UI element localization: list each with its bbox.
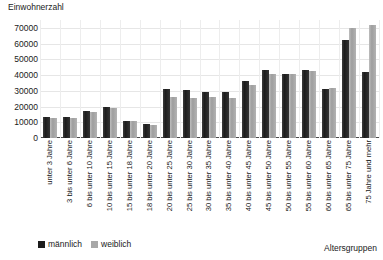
- bar-group: [319, 20, 339, 138]
- x-axis-category-label: 35 bis unter 40 Jahre: [226, 140, 234, 211]
- bar-group: [299, 20, 319, 138]
- bar-maennlich: [302, 70, 309, 138]
- x-axis-category-label: 25 bis unter 30 Jahre: [186, 140, 194, 211]
- x-axis-category-label: 6 bis unter 10 Jahre: [86, 140, 94, 207]
- legend-item-weiblich[interactable]: weiblich: [91, 239, 131, 249]
- bar-group: [40, 20, 60, 138]
- bar-weiblich: [150, 125, 157, 138]
- legend-item-maennlich[interactable]: männlich: [38, 239, 82, 249]
- x-axis-label-cell: 18 bis unter 20 Jahre: [140, 140, 160, 232]
- bar-group: [80, 20, 100, 138]
- x-axis-category-label: 3 bis unter 6 Jahre: [66, 140, 74, 203]
- y-axis-tick-label: 0: [0, 134, 38, 143]
- x-axis-category-labels: unter 3 Jahre3 bis unter 6 Jahre6 bis un…: [40, 140, 379, 232]
- x-axis-label-cell: 30 bis unter 35 Jahre: [200, 140, 220, 232]
- bar-maennlich: [163, 89, 170, 138]
- bar-maennlich: [63, 117, 70, 138]
- x-axis-label-cell: 65 bis unter 75 Jahre: [339, 140, 359, 232]
- x-axis-label-cell: 40 bis unter 45 Jahre: [239, 140, 259, 232]
- chart-legend: männlichweiblich: [38, 239, 131, 249]
- bar-weiblich: [170, 97, 177, 138]
- x-axis-label-cell: 25 bis unter 30 Jahre: [180, 140, 200, 232]
- bar-group: [100, 20, 120, 138]
- y-axis-tick-label: 40000: [0, 71, 38, 80]
- bar-weiblich: [329, 88, 336, 138]
- gridline-vertical: [379, 20, 380, 138]
- x-axis-category-label: 55 bis unter 60 Jahre: [305, 140, 313, 211]
- x-axis-label-cell: 50 bis unter 55 Jahre: [279, 140, 299, 232]
- y-axis-tick-label: 60000: [0, 39, 38, 48]
- legend-label: weiblich: [101, 239, 131, 249]
- bar-maennlich: [222, 92, 229, 138]
- bar-weiblich: [130, 121, 137, 138]
- bar-maennlich: [123, 121, 130, 138]
- bar-weiblich: [229, 98, 236, 138]
- bar-weiblich: [50, 118, 57, 138]
- bar-group: [279, 20, 299, 138]
- x-axis-category-label: 30 bis unter 35 Jahre: [206, 140, 214, 211]
- bar-weiblich: [110, 108, 117, 138]
- bar-maennlich: [342, 40, 349, 138]
- x-axis-category-label: 40 bis unter 45 Jahre: [246, 140, 254, 211]
- bar-weiblich: [209, 97, 216, 138]
- y-axis-tick-label: 10000: [0, 118, 38, 127]
- x-axis-category-label: 10 bis unter 15 Jahre: [106, 140, 114, 211]
- y-axis-title: Einwohnerzahl: [8, 2, 64, 12]
- bar-weiblich: [269, 74, 276, 139]
- bar-group: [200, 20, 220, 138]
- x-axis-label-cell: 35 bis unter 40 Jahre: [219, 140, 239, 232]
- y-axis-tick-label: 70000: [0, 24, 38, 33]
- bar-group: [359, 20, 379, 138]
- bar-group: [60, 20, 80, 138]
- y-axis-tick-label: 30000: [0, 87, 38, 96]
- bar-group: [259, 20, 279, 138]
- x-axis-label-cell: 45 bis unter 50 Jahre: [259, 140, 279, 232]
- bar-maennlich: [362, 72, 369, 138]
- bar-weiblich: [70, 118, 77, 138]
- x-axis-label-cell: 15 bis unter 18 Jahre: [120, 140, 140, 232]
- legend-swatch-icon: [38, 241, 45, 248]
- bar-group: [239, 20, 259, 138]
- x-axis-label-cell: 75 Jahre und mehr: [359, 140, 379, 232]
- bar-maennlich: [83, 111, 90, 138]
- bar-weiblich: [309, 71, 316, 138]
- y-axis-tick-label: 20000: [0, 102, 38, 111]
- x-axis-category-label: 18 bis unter 20 Jahre: [146, 140, 154, 211]
- x-axis-category-label: 45 bis unter 50 Jahre: [265, 140, 273, 211]
- bar-maennlich: [242, 81, 249, 138]
- bars-layer: [40, 20, 379, 138]
- x-axis-label-cell: 20 bis unter 25 Jahre: [160, 140, 180, 232]
- bar-maennlich: [322, 89, 329, 138]
- x-axis-category-label: unter 3 Jahre: [46, 140, 54, 185]
- x-axis-category-label: 60 bis unter 65 Jahre: [325, 140, 333, 211]
- bar-group: [180, 20, 200, 138]
- x-axis-category-label: 75 Jahre und mehr: [365, 140, 373, 204]
- x-axis-label-cell: 10 bis unter 15 Jahre: [100, 140, 120, 232]
- bar-maennlich: [262, 70, 269, 138]
- bar-maennlich: [143, 124, 150, 138]
- bar-weiblich: [289, 74, 296, 138]
- bar-group: [219, 20, 239, 138]
- bar-weiblich: [249, 85, 256, 138]
- bar-maennlich: [43, 117, 50, 138]
- legend-label: männlich: [48, 239, 82, 249]
- x-axis-category-label: 50 bis unter 55 Jahre: [285, 140, 293, 211]
- legend-swatch-icon: [91, 241, 98, 248]
- bar-group: [140, 20, 160, 138]
- bar-group: [160, 20, 180, 138]
- bar-maennlich: [282, 74, 289, 139]
- bar-group: [339, 20, 359, 138]
- x-axis-category-label: 20 bis unter 25 Jahre: [166, 140, 174, 211]
- x-axis-title: Altersgruppen: [324, 243, 377, 253]
- bar-maennlich: [202, 92, 209, 138]
- y-axis-tick-label: 50000: [0, 55, 38, 64]
- bar-maennlich: [183, 90, 190, 138]
- bar-weiblich: [90, 112, 97, 138]
- x-axis-label-cell: 60 bis unter 65 Jahre: [319, 140, 339, 232]
- x-axis-label-cell: 6 bis unter 10 Jahre: [80, 140, 100, 232]
- bar-group: [120, 20, 140, 138]
- x-axis-label-cell: 3 bis unter 6 Jahre: [60, 140, 80, 232]
- bar-weiblich: [369, 25, 376, 138]
- population-bar-chart: Einwohnerzahl 01000020000300004000050000…: [0, 0, 383, 260]
- x-axis-category-label: 15 bis unter 18 Jahre: [126, 140, 134, 211]
